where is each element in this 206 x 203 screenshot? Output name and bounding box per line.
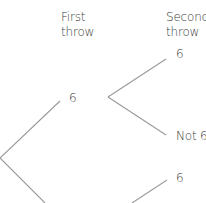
header-first-throw: First throw [61, 10, 94, 40]
branch-root-to-not6 [0, 158, 45, 203]
branch-6-to-6 [108, 59, 166, 97]
branch-not6-to-6 [132, 180, 167, 203]
node-first-6: 6 [69, 91, 76, 106]
branch-6-to-not6 [108, 97, 166, 135]
branch-root-to-6 [0, 101, 60, 158]
tree-diagram: First throw Second throw 6 6 Not 6 6 [0, 0, 206, 203]
header-second-throw: Second throw [166, 10, 206, 40]
node-second-6-bottom: 6 [176, 171, 183, 186]
node-second-6-top: 6 [176, 47, 183, 62]
node-second-not-6: Not 6 [176, 129, 206, 144]
